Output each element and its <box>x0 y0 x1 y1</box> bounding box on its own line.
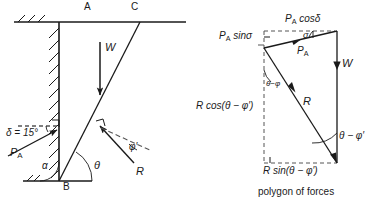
weight-label: W <box>105 42 115 53</box>
failure-plane-normal-dashed <box>101 128 152 151</box>
theta-angle-label: θ <box>94 160 100 171</box>
point-label-b: B <box>63 182 70 192</box>
wall-diagram <box>8 15 186 181</box>
active-thrust-label: PA <box>10 147 23 160</box>
theta-angle-arc <box>76 152 92 181</box>
point-label-a: A <box>84 2 91 12</box>
point-label-c: C <box>131 2 138 12</box>
figure-caption: polygon of forces <box>258 186 334 197</box>
retaining-wall-force-polygon-figure <box>0 0 375 208</box>
wall-friction-delta-label: δ = 15° <box>6 128 38 138</box>
pa-sin-rest: sinσ <box>230 30 252 41</box>
polygon-theta-minus-phi-prime-label: θ − φ′ <box>339 131 364 141</box>
reaction-label: R <box>136 166 144 177</box>
polygon-sigma-label: σ <box>303 31 308 40</box>
pa-cos-rest: cosδ <box>296 13 320 24</box>
delta-angle-arc <box>46 126 48 132</box>
polygon-pa-symbol: P <box>297 45 304 56</box>
polygon-r-cos-label: R cos(θ − φ′) <box>196 101 253 111</box>
alpha-angle-label: α <box>42 161 48 171</box>
polygon-pa-sin-delta-label: PA sinσ <box>219 31 252 42</box>
phi-prime-angle-label: φ′ <box>129 142 137 152</box>
retained-soil-hatching <box>49 28 59 178</box>
polygon-theta-minus-phi-label: θ−φ <box>266 80 280 88</box>
polygon-weight-label: W <box>342 58 352 69</box>
polygon-reaction-vector <box>264 48 337 163</box>
ground-hatching-top <box>18 15 45 22</box>
polygon-theta-minus-phi-prime-arc <box>312 133 337 143</box>
polygon-reaction-label: R <box>303 96 311 107</box>
polygon-pa-cos-delta-label: PA cosδ <box>285 14 320 25</box>
base-hatching <box>27 175 40 181</box>
polygon-weight-arrowhead <box>333 62 340 71</box>
pa-cos-symbol: P <box>285 13 292 24</box>
active-thrust-subscript: A <box>17 151 22 160</box>
polygon-r-sin-label: R sin(θ − φ′) <box>263 166 318 176</box>
failure-plane-right-angle-marker <box>96 119 105 126</box>
polygon-pa-label: PA <box>297 46 308 57</box>
pa-sin-symbol: P <box>219 30 226 41</box>
polygon-pa-subscript: A <box>304 49 309 58</box>
